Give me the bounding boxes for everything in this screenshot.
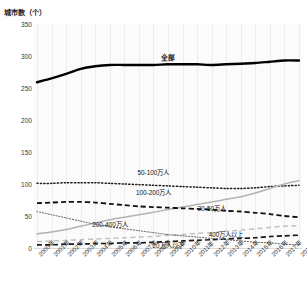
- x-axis-tick-labels: 2000年2001年2002年2003年2004年2005年2006年2007年…: [0, 0, 307, 288]
- line-chart: 城市数（个） 050100150200250300350 全部50-100万人1…: [0, 0, 307, 288]
